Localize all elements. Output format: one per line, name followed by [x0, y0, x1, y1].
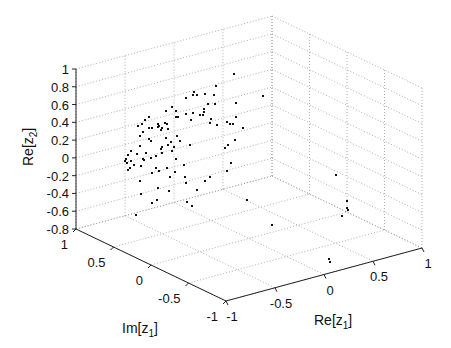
data-point — [175, 158, 177, 160]
data-point — [157, 187, 159, 189]
data-point — [169, 176, 171, 178]
grid-line — [76, 69, 272, 122]
data-point — [190, 119, 192, 121]
data-point — [224, 147, 226, 149]
data-point — [196, 94, 198, 96]
axis-line — [223, 301, 226, 304]
data-point — [335, 174, 337, 176]
data-point — [140, 193, 142, 195]
grid-lines — [76, 16, 422, 301]
data-point — [199, 114, 201, 116]
data-point — [167, 128, 169, 130]
data-point — [151, 202, 153, 204]
grid-line — [76, 105, 272, 158]
data-point — [168, 190, 170, 192]
data-point — [150, 140, 152, 142]
grid-line — [223, 189, 373, 261]
data-point — [329, 261, 331, 263]
grid-line — [151, 212, 347, 265]
data-point — [171, 150, 173, 152]
data-point — [160, 129, 162, 131]
data-point — [156, 199, 158, 201]
data-point — [148, 116, 150, 118]
data-point — [215, 85, 217, 87]
data-point — [175, 116, 177, 118]
y-tick-label: -0.5 — [158, 291, 180, 306]
data-point — [214, 103, 216, 105]
data-point — [170, 141, 172, 143]
data-point — [161, 152, 163, 154]
axis-line — [148, 265, 151, 268]
x-axis-label: Re[z1] — [314, 312, 352, 331]
data-point — [179, 140, 181, 142]
data-point — [166, 123, 168, 125]
y-tick-label: 0 — [136, 273, 143, 288]
axis-line — [186, 283, 189, 286]
data-point — [133, 164, 135, 166]
data-point — [186, 201, 188, 203]
data-point — [226, 121, 228, 123]
y-tick-label: 1 — [61, 237, 68, 252]
data-point — [204, 93, 206, 95]
data-point — [207, 103, 209, 105]
data-point — [183, 164, 185, 166]
data-points — [124, 73, 349, 263]
x-tick-label: 0 — [326, 283, 333, 298]
z-tick-label: -0.2 — [47, 169, 69, 184]
data-point — [157, 123, 159, 125]
data-point — [347, 209, 349, 211]
data-point — [177, 116, 179, 118]
data-point — [196, 189, 198, 191]
data-point — [203, 111, 205, 113]
scatter3d-chart: 10.80.60.40.20-0.2-0.4-0.6-0.810.50-0.5-… — [0, 0, 451, 348]
data-point — [160, 148, 162, 150]
data-point — [129, 167, 131, 169]
axis-line — [422, 248, 424, 252]
z-tick-label: -0.6 — [47, 204, 69, 219]
data-point — [192, 94, 194, 96]
data-point — [125, 158, 127, 160]
data-point — [137, 125, 139, 127]
grid-line — [76, 123, 272, 176]
z-tick-label: 0.8 — [51, 80, 69, 95]
data-point — [271, 224, 273, 226]
data-point — [124, 160, 126, 162]
y-tick-label: 0.5 — [87, 255, 105, 270]
data-point — [192, 112, 194, 114]
data-point — [174, 171, 176, 173]
data-point — [216, 124, 218, 126]
data-point — [341, 215, 343, 217]
x-tick-label: -1 — [226, 309, 238, 324]
z-tick-label: 0.6 — [51, 98, 69, 113]
data-point — [189, 144, 191, 146]
y-axis-label: Im[z1] — [122, 320, 158, 339]
data-point — [167, 144, 169, 146]
data-point — [176, 135, 178, 137]
data-point — [161, 127, 163, 129]
x-tick-label: -0.5 — [270, 296, 292, 311]
data-point — [151, 127, 153, 129]
z-tick-label: -0.4 — [47, 186, 69, 201]
x-tick-label: 0.5 — [370, 269, 388, 284]
data-point — [161, 146, 163, 148]
x-tick-label: 1 — [424, 256, 431, 271]
data-point — [233, 73, 235, 75]
axis-line — [111, 247, 114, 250]
data-point — [148, 138, 150, 140]
axis-line — [226, 301, 228, 305]
data-point — [126, 162, 128, 164]
data-point — [226, 170, 228, 172]
data-point — [229, 123, 231, 125]
grid-line — [114, 194, 310, 247]
data-point — [135, 214, 137, 216]
data-point — [191, 205, 193, 207]
data-point — [148, 127, 150, 129]
data-point — [155, 167, 157, 169]
data-point — [158, 170, 160, 172]
grid-line — [125, 216, 275, 288]
data-point — [165, 110, 167, 112]
data-point — [142, 158, 144, 160]
data-point — [175, 110, 177, 112]
data-point — [235, 116, 237, 118]
data-point — [213, 94, 215, 96]
